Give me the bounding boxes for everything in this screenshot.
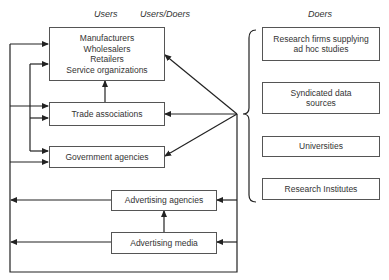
box-government-agencies: Government agencies (49, 146, 165, 168)
box-universities: Universities (262, 136, 380, 157)
box-industry-users: Manufacturers Wholesalers Retailers Serv… (49, 27, 165, 81)
label-research-firms-2: ad hoc studies (294, 44, 349, 55)
box-advertising-agencies: Advertising agencies (111, 190, 217, 211)
box-trade-associations: Trade associations (49, 102, 165, 126)
label-universities: Universities (299, 141, 343, 152)
header-users: Users (94, 9, 118, 19)
label-research-firms-1: Research firms supplying (273, 34, 368, 45)
label-trade-associations: Trade associations (71, 109, 142, 120)
box-research-firms: Research firms supplying ad hoc studies (262, 27, 380, 61)
label-wholesalers: Wholesalers (84, 44, 131, 55)
box-research-institutes: Research Institutes (262, 178, 380, 200)
label-manufacturers: Manufacturers (80, 33, 134, 44)
header-doers: Doers (308, 9, 332, 19)
box-syndicated-data: Syndicated data sources (262, 82, 380, 114)
label-service-organizations: Service organizations (66, 65, 147, 76)
box-advertising-media: Advertising media (111, 232, 217, 254)
label-advertising-agencies: Advertising agencies (125, 195, 203, 206)
label-syndicated-2: sources (306, 98, 336, 109)
label-government-agencies: Government agencies (65, 152, 148, 163)
label-research-institutes: Research Institutes (285, 184, 358, 195)
label-advertising-media: Advertising media (130, 238, 198, 249)
label-retailers: Retailers (90, 54, 124, 65)
label-syndicated-1: Syndicated data (291, 88, 352, 99)
header-users-doers: Users/Doers (140, 9, 190, 19)
